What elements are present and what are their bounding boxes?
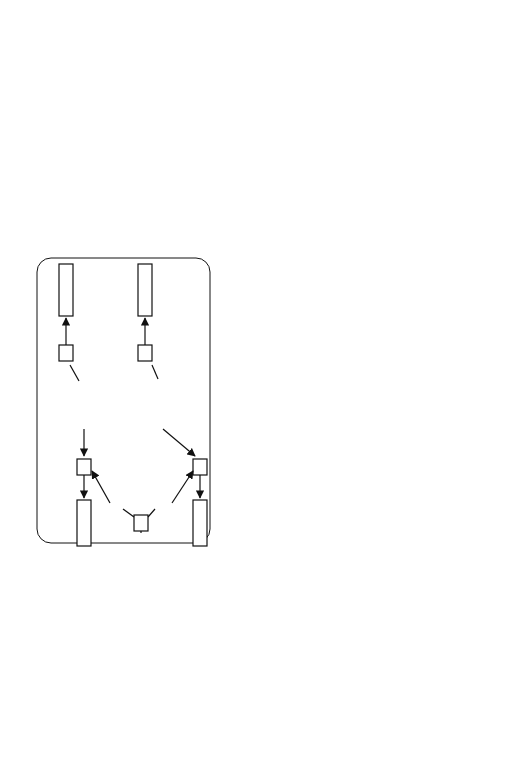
analogy-criterion-box <box>37 258 210 543</box>
node-var-n <box>193 459 207 475</box>
node-material-m <box>77 500 91 546</box>
node-var-x <box>59 345 73 361</box>
node-var-m <box>77 459 91 475</box>
node-something-x <box>59 264 73 316</box>
node-var-y <box>138 345 152 361</box>
node-var-z <box>134 515 148 531</box>
analogy-diagram <box>0 0 507 781</box>
node-something-y <box>138 264 152 316</box>
analogy-criterion-panel <box>37 258 210 546</box>
node-material-n <box>193 500 207 546</box>
rotated-figure <box>0 0 507 781</box>
